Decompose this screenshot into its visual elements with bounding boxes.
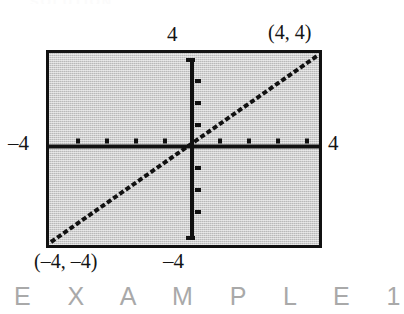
y-axis xyxy=(186,58,201,240)
clipped-header-remnant: SOLUTION xyxy=(30,0,180,4)
label-y-max: 4 xyxy=(167,24,178,45)
graph-plot-frame xyxy=(46,50,322,248)
example-caption: E X A M P L E 1 xyxy=(14,282,404,311)
label-x-min: –4 xyxy=(8,133,29,154)
label-point-4-4: (4, 4) xyxy=(268,22,311,42)
label-x-max: 4 xyxy=(328,133,339,154)
label-y-min: –4 xyxy=(163,251,184,272)
curve-y-equals-x xyxy=(51,56,317,242)
label-point-neg4-neg4: (–4, –4) xyxy=(34,251,97,271)
graph-canvas xyxy=(49,53,319,245)
